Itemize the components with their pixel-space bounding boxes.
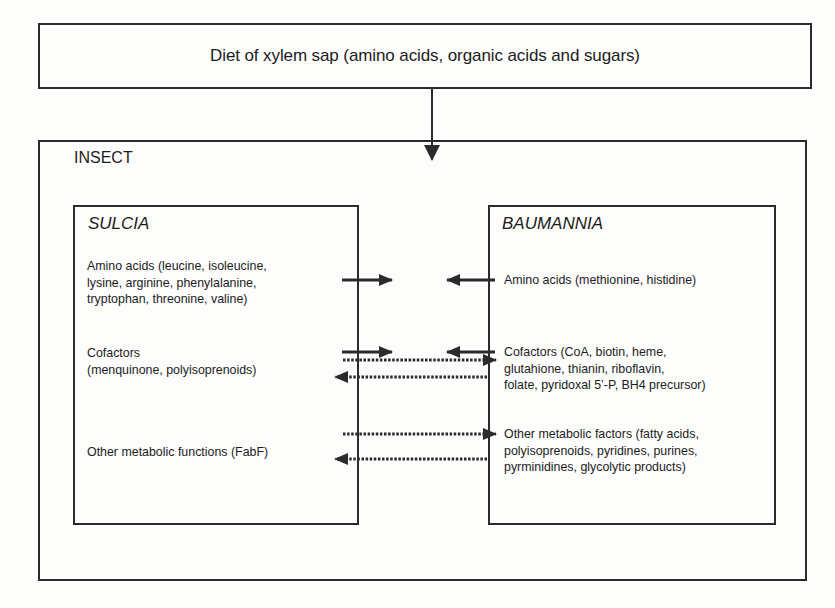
arrows-layer: [0, 0, 835, 608]
